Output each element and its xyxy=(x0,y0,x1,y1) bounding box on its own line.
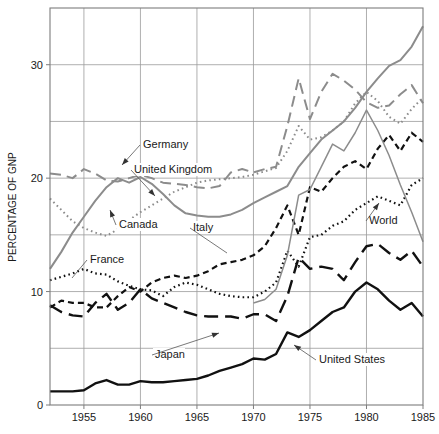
y-tick-label: 30 xyxy=(31,59,43,71)
series-line-germany xyxy=(50,26,423,269)
y-axis-title-text: PERCENTAGE OF GNP xyxy=(7,152,18,262)
series-layer xyxy=(50,26,423,391)
x-tick-label: 1985 xyxy=(411,411,435,423)
chart-figure: 19551960196519701975198019850102030 Germ… xyxy=(0,0,439,434)
series-annotations: GermanyUnited KingdomCanadaItalyFranceWo… xyxy=(72,138,399,366)
x-tick-label: 1980 xyxy=(354,411,378,423)
axis-ticks: 19551960196519701975198019850102030 xyxy=(31,59,435,423)
y-axis-title: PERCENTAGE OF GNP xyxy=(7,152,18,262)
series-line-united-states xyxy=(50,283,423,392)
x-tick-label: 1965 xyxy=(185,411,209,423)
annotation-japan: Japan xyxy=(152,333,219,361)
series-label: Canada xyxy=(119,218,158,230)
annotation-france: France xyxy=(72,253,126,278)
series-label: Germany xyxy=(143,138,189,150)
annotation-canada: Canada xyxy=(110,210,158,231)
x-tick-label: 1955 xyxy=(72,411,96,423)
y-tick-label: 20 xyxy=(31,172,43,184)
y-tick-label: 0 xyxy=(37,399,43,411)
series-line-france xyxy=(50,178,423,297)
series-label: World xyxy=(369,214,398,226)
annotation-arrowhead xyxy=(212,333,219,338)
annotation-arrowhead xyxy=(110,210,115,217)
annotation-leader xyxy=(72,260,87,278)
line-chart: 19551960196519701975198019850102030 Germ… xyxy=(0,0,439,434)
annotation-italy: Italy xyxy=(190,221,227,253)
annotation-world: World xyxy=(366,203,399,227)
plot-border xyxy=(50,8,423,405)
x-tick-label: 1960 xyxy=(128,411,152,423)
series-label: France xyxy=(90,253,124,265)
y-tick-label: 10 xyxy=(31,286,43,298)
grid-layer xyxy=(50,8,423,405)
series-label: United Kingdom xyxy=(134,163,212,175)
x-tick-label: 1970 xyxy=(241,411,265,423)
annotation-arrowhead xyxy=(373,203,379,210)
series-label: United States xyxy=(319,353,386,365)
x-tick-label: 1975 xyxy=(298,411,322,423)
series-label: Italy xyxy=(193,221,214,233)
plot-frame xyxy=(50,8,423,405)
annotation-germany: Germany xyxy=(122,138,189,165)
series-label: Japan xyxy=(155,348,185,360)
